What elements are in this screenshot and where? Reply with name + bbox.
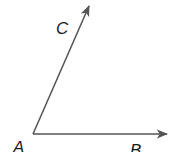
angle-figure <box>0 0 180 152</box>
label-a: A <box>13 139 24 152</box>
angle-diagram: C A B <box>0 0 180 152</box>
label-c: C <box>56 20 68 37</box>
label-b: B <box>130 142 141 152</box>
